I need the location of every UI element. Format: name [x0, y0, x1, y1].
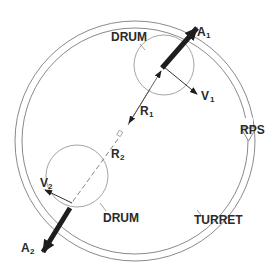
- svg-text:1: 1: [206, 31, 211, 40]
- svg-text:R: R: [140, 104, 149, 118]
- r1-label: R 1: [140, 104, 154, 119]
- a2-label: A 2: [21, 241, 35, 256]
- drum-top-label: DRUM: [111, 30, 147, 44]
- svg-text:V: V: [201, 89, 209, 103]
- turret-center-marker: [117, 130, 123, 136]
- turret-label: TURRET: [194, 213, 243, 227]
- a1-vector: [162, 28, 197, 68]
- v2-label: V 2: [40, 176, 53, 191]
- drum-top-leader: [140, 44, 145, 50]
- svg-text:1: 1: [210, 95, 215, 104]
- svg-text:1: 1: [149, 110, 154, 119]
- a1-label: A 1: [197, 25, 211, 40]
- rps-label: RPS: [240, 123, 265, 137]
- turret-drum-diagram: DRUM DRUM TURRET RPS A 1 V 1 R 1 R 2 V 2…: [0, 0, 270, 266]
- svg-text:2: 2: [48, 182, 53, 191]
- svg-text:A: A: [21, 241, 30, 255]
- drum-bottom-circle: [46, 145, 108, 207]
- svg-text:2: 2: [120, 153, 125, 162]
- drum-bottom-label: DRUM: [103, 211, 139, 225]
- svg-text:R: R: [111, 147, 120, 161]
- svg-text:A: A: [197, 25, 206, 39]
- svg-text:2: 2: [30, 247, 35, 256]
- svg-text:V: V: [40, 176, 48, 190]
- drum-bottom-leader: [100, 203, 106, 211]
- v1-label: V 1: [201, 89, 215, 104]
- r2-label: R 2: [111, 147, 125, 162]
